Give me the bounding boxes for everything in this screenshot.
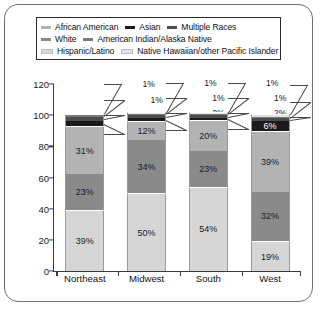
segment-value-label: 20% <box>199 131 217 141</box>
bar-segment[interactable] <box>189 115 228 118</box>
segment-value-callout: 1% <box>274 93 286 103</box>
segment-value-label: 39% <box>76 236 94 246</box>
y-axis-tick-mark <box>49 146 54 147</box>
segment-value-label: 19% <box>261 252 279 262</box>
chart-legend: African AmericanAsianMultiple RacesWhite… <box>36 17 281 60</box>
y-axis-tick-label: 40 <box>38 203 49 214</box>
y-axis-tick-mark <box>49 239 54 240</box>
segment-value-label: 31% <box>76 146 94 156</box>
bar-segment[interactable] <box>189 112 228 114</box>
bar-stack[interactable]: 19%32%39%6% <box>251 114 290 271</box>
callout-leader-line <box>290 102 311 103</box>
legend-item[interactable]: American Indian/Alaska Native <box>83 33 211 45</box>
segment-value-label: 50% <box>138 228 156 238</box>
legend-item[interactable]: Hispanic/Latino <box>41 45 114 57</box>
segment-value-callout: 1% <box>212 93 224 103</box>
bar-stack[interactable]: 50%34%12% <box>127 112 166 271</box>
legend-swatch-icon <box>41 26 51 29</box>
legend-row: WhiteAmerican Indian/Alaska Native <box>41 33 276 45</box>
legend-item[interactable]: Asian <box>125 21 160 33</box>
bar-segment[interactable] <box>251 114 290 117</box>
bar-segment[interactable]: 39% <box>251 131 290 192</box>
callout-leader-line <box>166 83 183 84</box>
legend-swatch-icon <box>83 38 93 41</box>
bar-segment[interactable] <box>127 112 166 114</box>
chart-panel: African AmericanAsianMultiple RacesWhite… <box>4 4 313 302</box>
bar-segment[interactable]: 34% <box>127 140 166 193</box>
bar-segment[interactable]: 19% <box>251 241 290 271</box>
bar-segment[interactable] <box>189 114 228 116</box>
y-axis-tick-mark <box>49 208 54 209</box>
legend-label: Hispanic/Latino <box>57 45 114 57</box>
bar-segment[interactable]: 39% <box>65 210 104 271</box>
legend-item[interactable]: African American <box>41 21 118 33</box>
bar-segment[interactable] <box>127 114 166 116</box>
legend-label: American Indian/Alaska Native <box>97 33 211 45</box>
bar-segment[interactable]: 50% <box>127 193 166 271</box>
bar-segment[interactable]: 20% <box>189 120 228 151</box>
segment-value-label: 23% <box>76 187 94 197</box>
y-axis-tick-mark <box>49 83 54 84</box>
bar-segment[interactable] <box>65 121 104 126</box>
y-axis-tick-label: 80 <box>38 141 49 152</box>
bar-segment[interactable]: 6% <box>251 121 290 130</box>
bar-segment[interactable] <box>189 118 228 120</box>
y-axis-tick-label: 60 <box>38 172 49 183</box>
segment-value-label: 6% <box>264 121 277 130</box>
y-axis-tick-mark <box>49 270 54 271</box>
bar-segment[interactable] <box>251 118 290 121</box>
bar-stack[interactable]: 54%23%20% <box>189 112 228 271</box>
legend-label: White <box>55 33 76 45</box>
legend-label: Native Hawaiian/other Pacific Islander <box>137 45 278 57</box>
legend-label: African American <box>55 21 118 33</box>
segment-value-label: 54% <box>199 224 217 234</box>
legend-label: Multiple Races <box>181 21 236 33</box>
legend-item[interactable]: White <box>41 33 76 45</box>
bar-segment[interactable] <box>65 115 104 117</box>
legend-swatch-icon <box>121 49 133 54</box>
legend-swatch-icon <box>41 38 51 41</box>
segment-value-label: 23% <box>199 164 217 174</box>
bar-segment[interactable] <box>251 117 290 119</box>
segment-value-label: 39% <box>261 157 279 167</box>
bar-segment[interactable] <box>65 114 104 116</box>
y-axis-tick-mark <box>49 115 54 116</box>
legend-swatch-icon <box>167 26 177 29</box>
bar-segment[interactable]: 23% <box>189 151 228 187</box>
segment-value-callout: 1% <box>266 78 278 88</box>
segment-value-callout: 1% <box>204 78 216 88</box>
y-axis-tick-label: 100 <box>33 110 49 121</box>
segment-value-callout: 1% <box>150 95 162 105</box>
bar-segment[interactable]: 54% <box>189 187 228 271</box>
bar-segment[interactable] <box>127 115 166 118</box>
segment-value-label: 32% <box>261 211 279 221</box>
callout-leader-line <box>228 129 249 130</box>
bar-segment[interactable] <box>127 118 166 121</box>
segment-value-label: 12% <box>138 126 156 136</box>
bar-segment[interactable] <box>65 117 104 122</box>
bar-segment[interactable]: 31% <box>65 126 104 174</box>
y-axis-tick-label: 20 <box>38 234 49 245</box>
legend-row: Hispanic/LatinoNative Hawaiian/other Pac… <box>41 45 276 57</box>
legend-row: African AmericanAsianMultiple Races <box>41 21 276 33</box>
bar-segment[interactable]: 23% <box>65 174 104 210</box>
plot-area: 02040608010012039%23%31%1%1%3%3%Northeas… <box>54 84 301 271</box>
callout-leader-line <box>290 85 307 86</box>
callout-leader-line <box>104 84 121 85</box>
legend-item[interactable]: Multiple Races <box>167 21 236 33</box>
callout-leader-line <box>166 130 187 131</box>
legend-item[interactable]: Native Hawaiian/other Pacific Islander <box>121 45 278 57</box>
bar-stack[interactable]: 39%23%31% <box>65 114 104 271</box>
legend-label: Asian <box>139 21 160 33</box>
legend-swatch-icon <box>125 26 135 29</box>
x-axis-tick-mark <box>300 271 301 276</box>
segment-value-callout: 1% <box>142 79 154 89</box>
y-axis-tick-label: 120 <box>33 79 49 90</box>
y-axis-tick-mark <box>49 177 54 178</box>
callout-leader-line <box>228 83 245 84</box>
bar-segment[interactable]: 32% <box>251 192 290 242</box>
legend-swatch-icon <box>41 49 53 54</box>
segment-value-label: 34% <box>138 162 156 172</box>
bar-segment[interactable]: 12% <box>127 121 166 140</box>
